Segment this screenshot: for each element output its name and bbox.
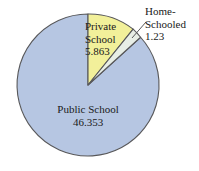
slice-label-private-school: Private School 5.863	[85, 20, 116, 58]
slice-label-home-schooled-line1: Home-	[145, 5, 186, 18]
slice-label-public-school-line1: Public School	[42, 103, 134, 116]
slice-label-public-school: Public School 46.353	[42, 103, 134, 128]
slice-value-home-schooled: 1.23	[145, 30, 186, 43]
pie-chart-figure: Private School 5.863 Home- Schooled 1.23…	[0, 0, 199, 171]
slice-label-private-school-line2: School	[85, 33, 116, 46]
slice-value-private-school: 5.863	[85, 45, 116, 58]
slice-label-home-schooled: Home- Schooled 1.23	[145, 5, 186, 43]
slice-label-private-school-line1: Private	[85, 20, 116, 33]
slice-label-home-schooled-line2: Schooled	[145, 18, 186, 31]
slice-value-public-school: 46.353	[42, 116, 134, 129]
